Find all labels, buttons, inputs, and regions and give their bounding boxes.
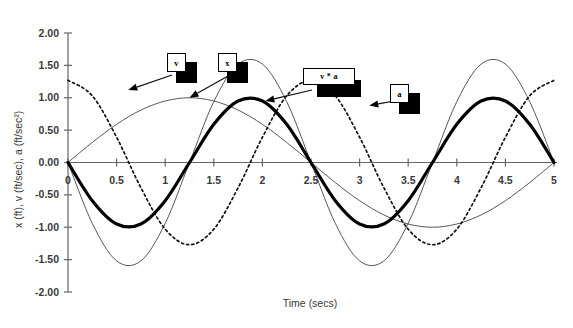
y-tick-label: 2.00 xyxy=(39,27,60,39)
chart-plot: 2.001.501.000.500.00-0.50-1.00-1.50-2.00… xyxy=(0,0,573,328)
annotation-arrow xyxy=(265,90,312,102)
y-tick-label: 1.00 xyxy=(39,91,60,103)
x-tick-label: 2 xyxy=(259,174,265,186)
x-tick-label: 0 xyxy=(65,174,71,186)
callout-label: v xyxy=(167,53,186,72)
y-tick-label: -2.00 xyxy=(35,286,59,298)
x-tick-label: 3.5 xyxy=(401,174,416,186)
x-tick-label: 4 xyxy=(454,174,460,186)
callout-label: a xyxy=(390,84,409,103)
y-tick-label: -0.50 xyxy=(35,188,59,200)
x-axis-title: Time (secs) xyxy=(283,297,337,309)
x-tick-label: 1.5 xyxy=(206,174,221,186)
y-axis-title: x (ft), v (ft/sec), a (ft/sec²) xyxy=(12,111,24,228)
callout-label: v * a xyxy=(303,68,355,85)
x-tick-label: 0.5 xyxy=(109,174,124,186)
chart-container: 2.001.501.000.500.00-0.50-1.00-1.50-2.00… xyxy=(0,0,573,328)
y-tick-label: 1.50 xyxy=(39,59,60,71)
x-tick-label: 4.5 xyxy=(498,174,513,186)
y-tick-label: -1.00 xyxy=(35,221,59,233)
x-tick-label: 3 xyxy=(357,174,363,186)
x-tick-label: 5 xyxy=(551,174,557,186)
y-tick-label: -1.50 xyxy=(35,253,59,265)
x-tick-label: 1 xyxy=(162,174,168,186)
y-tick-label: 0.50 xyxy=(39,124,60,136)
y-tick-label: 0.00 xyxy=(39,156,60,168)
callout-label: x xyxy=(218,53,237,72)
annotation-arrow xyxy=(128,75,172,91)
